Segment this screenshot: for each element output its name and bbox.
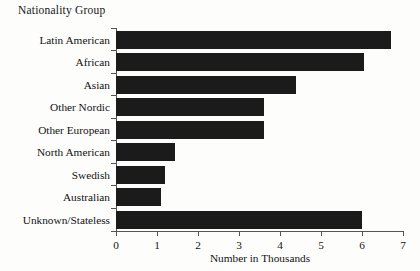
plot-area: Latin AmericanAfricanAsianOther NordicOt… [116, 29, 403, 231]
x-axis-tick [239, 231, 240, 236]
value-axis-line [116, 231, 404, 232]
bar [116, 31, 391, 49]
category-tick [111, 163, 116, 164]
x-axis-tick [321, 231, 322, 236]
chart-title: Nationality Group [18, 4, 105, 16]
category-label: Latin American [39, 31, 110, 49]
category-tick [111, 28, 116, 29]
category-label: African [76, 53, 111, 71]
x-axis-tick-label: 7 [388, 239, 418, 251]
x-axis-tick-label: 1 [142, 239, 172, 251]
category-label: Other European [38, 121, 110, 139]
category-label: Other Nordic [50, 98, 110, 116]
x-axis-tick-label: 0 [101, 239, 131, 251]
category-tick [111, 50, 116, 51]
category-tick [111, 208, 116, 209]
bar [116, 143, 175, 161]
bar [116, 121, 264, 139]
category-tick [111, 118, 116, 119]
bar-row: Australian [116, 186, 403, 208]
bar [116, 98, 264, 116]
x-axis-tick [280, 231, 281, 236]
category-label: Unknown/Stateless [23, 211, 110, 229]
bar-row: Swedish [116, 164, 403, 186]
category-label: Asian [84, 76, 110, 94]
bar-chart: Nationality Group Latin AmericanAfricanA… [0, 0, 420, 271]
x-axis-tick-label: 4 [265, 239, 295, 251]
x-axis-tick [198, 231, 199, 236]
bar [116, 53, 364, 71]
bar-row: Asian [116, 74, 403, 96]
x-axis-tick [157, 231, 158, 236]
category-label: Swedish [72, 166, 110, 184]
x-axis-tick [362, 231, 363, 236]
bar [116, 188, 161, 206]
bar [116, 76, 296, 94]
bar-row: African [116, 51, 403, 73]
category-tick [111, 140, 116, 141]
bar [116, 211, 362, 229]
category-label: North American [37, 143, 110, 161]
x-axis-tick [116, 231, 117, 236]
x-axis-title: Number in Thousands [116, 252, 404, 264]
category-tick [111, 185, 116, 186]
bar-row: Unknown/Stateless [116, 209, 403, 231]
bar-row: North American [116, 141, 403, 163]
bar [116, 166, 165, 184]
bar-row: Other European [116, 119, 403, 141]
bar-row: Other Nordic [116, 96, 403, 118]
x-axis-tick-label: 3 [224, 239, 254, 251]
category-tick [111, 95, 116, 96]
category-tick [111, 73, 116, 74]
x-axis-tick-label: 6 [347, 239, 377, 251]
x-axis-tick-label: 2 [183, 239, 213, 251]
bar-row: Latin American [116, 29, 403, 51]
category-label: Australian [63, 188, 110, 206]
x-axis-tick-label: 5 [306, 239, 336, 251]
x-axis-tick [403, 231, 404, 236]
